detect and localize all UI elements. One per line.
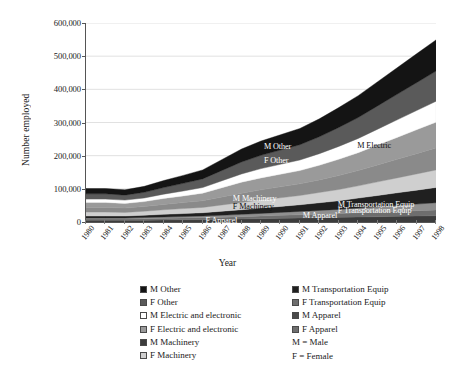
- legend-note: M = Male: [292, 336, 442, 349]
- chart-legend: M OtherF OtherM Electric and electronicF…: [140, 283, 440, 369]
- legend-item-label: F Machinery: [150, 351, 196, 360]
- plot-area: [85, 23, 436, 223]
- legend-swatch-icon: [140, 339, 147, 346]
- legend-swatch-icon: [292, 312, 299, 319]
- x-axis-tick-label: 1994: [352, 224, 369, 242]
- y-axis-tick-label: 500,000: [54, 51, 81, 61]
- series-label: M Apparel: [303, 212, 337, 220]
- y-axis-tick-label: 200,000: [54, 151, 81, 161]
- legend-column-right: M Transportation EquipF Transportation E…: [292, 283, 442, 362]
- y-axis-tick-label: 0: [77, 217, 81, 227]
- y-axis-tick-label: 100,000: [54, 184, 81, 194]
- x-axis-tick-mark: [241, 220, 242, 224]
- legend-swatch-icon: [140, 352, 147, 359]
- legend-item-label: M Apparel: [302, 311, 341, 320]
- x-axis-tick-label: 1998: [430, 224, 447, 242]
- y-axis-tick-mark: [82, 89, 86, 90]
- legend-item-label: F Apparel: [302, 325, 338, 334]
- plot-svg: [86, 23, 436, 222]
- x-axis-tick-label: 1989: [255, 224, 272, 242]
- x-axis-tick-label: 1993: [332, 224, 349, 242]
- x-axis-tick-label: 1986: [196, 224, 213, 242]
- series-label: F Machinery: [233, 203, 274, 211]
- x-axis-tick-label: 1982: [118, 224, 135, 242]
- legend-item-label: F Electric and electronic: [150, 325, 238, 334]
- legend-item-label: M Electric and electronic: [150, 311, 241, 320]
- legend-item-label: F Other: [150, 298, 178, 307]
- legend-item[interactable]: F Other: [140, 296, 290, 309]
- x-axis-tick-mark: [124, 220, 125, 224]
- y-axis-tick-mark: [82, 156, 86, 157]
- x-axis-tick-mark: [202, 220, 203, 224]
- x-axis-tick-mark: [163, 220, 164, 224]
- legend-item[interactable]: F Apparel: [292, 323, 442, 336]
- x-axis-tick-label: 1981: [99, 224, 116, 242]
- legend-item[interactable]: F Transportation Equip: [292, 296, 442, 309]
- y-axis-tick-label: 600,000: [54, 18, 81, 28]
- x-axis-tick-label: 1985: [177, 224, 194, 242]
- y-axis-tick-label: 300,000: [54, 118, 81, 128]
- x-axis-tick-mark: [396, 220, 397, 224]
- legend-item-label: F Transportation Equip: [302, 298, 386, 307]
- x-axis-title: Year: [0, 258, 475, 268]
- x-axis-tick-mark: [221, 220, 222, 224]
- x-axis-tick-label: 1996: [391, 224, 408, 242]
- x-axis-tick-mark: [338, 220, 339, 224]
- legend-item-label: M Other: [150, 285, 181, 294]
- legend-swatch-icon: [140, 312, 147, 319]
- x-axis-tick-mark: [260, 220, 261, 224]
- x-axis-tick-mark: [104, 220, 105, 224]
- legend-item-label: M Transportation Equip: [302, 285, 389, 294]
- x-axis-tick-mark: [182, 220, 183, 224]
- y-axis-tick-mark: [82, 189, 86, 190]
- x-axis-tick-label: 1983: [138, 224, 155, 242]
- legend-item[interactable]: M Electric and electronic: [140, 309, 290, 322]
- legend-swatch-icon: [140, 286, 147, 293]
- x-axis-tick-label: 1988: [235, 224, 252, 242]
- x-axis-tick-mark: [299, 220, 300, 224]
- x-axis-tick-label: 1991: [293, 224, 310, 242]
- legend-item[interactable]: M Other: [140, 283, 290, 296]
- stacked-area-chart: Number employed 0100,000200,000300,00040…: [0, 0, 475, 250]
- x-axis-title-text: Year: [219, 258, 237, 268]
- y-axis-tick-label: 400,000: [54, 84, 81, 94]
- legend-note: F = Female: [292, 349, 442, 362]
- legend-swatch-icon: [292, 286, 299, 293]
- series-label: F Other: [264, 157, 289, 165]
- series-label: M Electric: [357, 142, 391, 150]
- x-axis-tick-mark: [435, 220, 436, 224]
- x-axis-tick-mark: [85, 220, 86, 224]
- x-axis-tick-mark: [143, 220, 144, 224]
- chart-page: Number employed 0100,000200,000300,00040…: [0, 0, 475, 373]
- legend-item[interactable]: M Machinery: [140, 336, 290, 349]
- series-label: M Other: [264, 143, 291, 151]
- legend-item[interactable]: M Transportation Equip: [292, 283, 442, 296]
- x-axis-tick-label: 1997: [410, 224, 427, 242]
- y-axis-tick-labels: 0100,000200,000300,000400,000500,000600,…: [30, 14, 84, 230]
- legend-swatch-icon: [292, 299, 299, 306]
- x-axis-tick-labels: 1980198119821983198419851986198719881989…: [85, 224, 437, 258]
- series-label: F Transportation Equip: [338, 207, 412, 215]
- y-axis-tick-mark: [82, 56, 86, 57]
- legend-item[interactable]: M Apparel: [292, 309, 442, 322]
- x-axis-tick-label: 1990: [274, 224, 291, 242]
- legend-item-label: M Machinery: [150, 338, 199, 347]
- x-axis-tick-mark: [416, 220, 417, 224]
- legend-swatch-icon: [140, 299, 147, 306]
- legend-swatch-icon: [140, 326, 147, 333]
- x-axis-tick-label: 1992: [313, 224, 330, 242]
- legend-item[interactable]: F Electric and electronic: [140, 323, 290, 336]
- x-axis-tick-mark: [357, 220, 358, 224]
- x-axis-tick-mark: [279, 220, 280, 224]
- x-axis-tick-label: 1987: [216, 224, 233, 242]
- legend-column-left: M OtherF OtherM Electric and electronicF…: [140, 283, 290, 362]
- x-axis-tick-label: 1995: [371, 224, 388, 242]
- legend-swatch-icon: [292, 326, 299, 333]
- x-axis-tick-mark: [377, 220, 378, 224]
- x-axis-tick-mark: [318, 220, 319, 224]
- legend-item[interactable]: F Machinery: [140, 349, 290, 362]
- y-axis-tick-mark: [82, 23, 86, 24]
- x-axis-tick-label: 1984: [157, 224, 174, 242]
- y-axis-tick-mark: [82, 123, 86, 124]
